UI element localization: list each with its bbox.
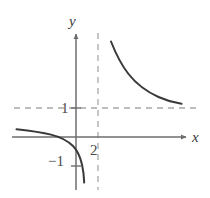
axes-group: [12, 34, 186, 190]
y-tick-label-negative-one: −1: [48, 154, 64, 169]
x-tick-label-two: 2: [90, 143, 98, 158]
curve-group: [17, 42, 182, 183]
x-axis-label: x: [192, 130, 199, 145]
y-tick-label-one: 1: [61, 101, 69, 116]
graph-figure: y x 1 −1 2: [0, 0, 210, 198]
plot-canvas: [0, 0, 210, 198]
y-axis-label: y: [69, 14, 76, 29]
asymptote-group: [14, 33, 196, 190]
curve-right-branch: [111, 42, 182, 104]
